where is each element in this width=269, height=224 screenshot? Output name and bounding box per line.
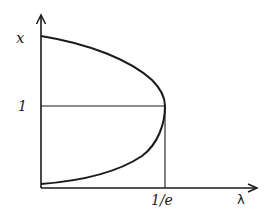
x-tick-label-inverse-e: 1/e xyxy=(151,193,173,207)
curve-lower-branch xyxy=(41,106,165,184)
y-tick-label-one: 1 xyxy=(18,99,27,113)
x-axis-label: λ xyxy=(237,193,245,206)
y-axis-label: x xyxy=(16,31,24,46)
diagram-canvas xyxy=(0,0,269,224)
curve-upper-branch xyxy=(41,36,165,106)
diagram-figure: x 1 1/e λ xyxy=(0,0,269,224)
